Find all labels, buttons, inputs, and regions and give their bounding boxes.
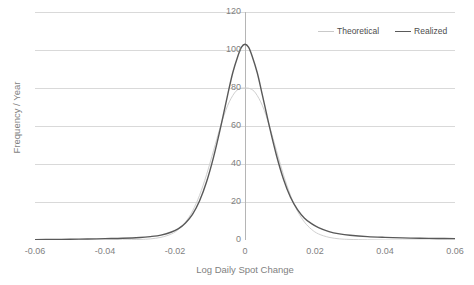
legend-line-swatch-theoretical bbox=[318, 31, 334, 32]
x-axis-tick-label: -0.02 bbox=[153, 246, 197, 256]
chart-legend: Theoretical Realized bbox=[318, 26, 447, 36]
x-axis-tick-label: 0.02 bbox=[293, 246, 337, 256]
x-axis-title: Log Daily Spot Change bbox=[35, 264, 455, 275]
x-axis-tick-label: 0.04 bbox=[363, 246, 407, 256]
x-axis-tick-label: -0.06 bbox=[13, 246, 57, 256]
legend-line-swatch-realized bbox=[395, 31, 411, 32]
legend-label-theoretical: Theoretical bbox=[337, 26, 379, 36]
plot-svg bbox=[35, 12, 455, 240]
legend-item-theoretical[interactable]: Theoretical bbox=[318, 26, 379, 36]
chart-container: 020406080100120 -0.06-0.04-0.0200.020.04… bbox=[0, 0, 474, 285]
x-axis-tick-label: -0.04 bbox=[83, 246, 127, 256]
x-axis-tick-label: 0 bbox=[223, 246, 267, 256]
x-axis-tick-label: 0.06 bbox=[433, 246, 474, 256]
legend-label-realized: Realized bbox=[414, 26, 447, 36]
y-axis-title: Frequency / Year bbox=[11, 58, 22, 178]
x-axis-tick-labels: -0.06-0.04-0.0200.020.040.06 bbox=[35, 246, 455, 260]
legend-item-realized[interactable]: Realized bbox=[395, 26, 447, 36]
plot-area bbox=[35, 12, 455, 240]
